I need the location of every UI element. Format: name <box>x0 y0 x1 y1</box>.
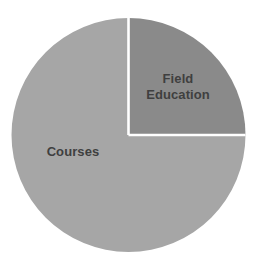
pie-label-field-education: Field Education <box>134 71 222 103</box>
pie-chart-graphic <box>0 0 257 273</box>
pie-chart-figure: Field Education Courses <box>0 0 257 273</box>
pie-label-courses: Courses <box>29 144 117 160</box>
